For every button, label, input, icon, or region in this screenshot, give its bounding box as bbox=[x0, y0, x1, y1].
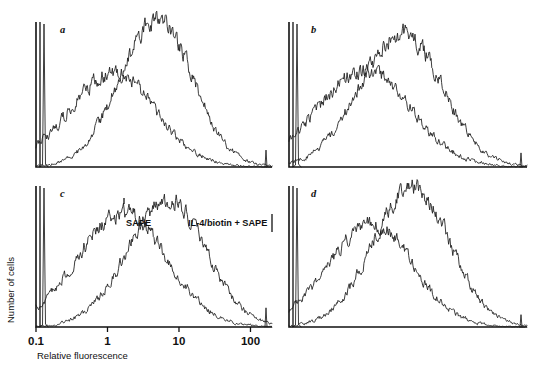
y-axis-title: Number of cells bbox=[5, 257, 16, 323]
x-axis-title: Relative fluorescence bbox=[37, 350, 128, 361]
panel-a-trace-il4-biotin-sape bbox=[36, 11, 272, 166]
panel-d-axes bbox=[289, 186, 527, 327]
panels-group bbox=[36, 11, 527, 327]
panel-b-axes bbox=[289, 22, 527, 167]
panel-b-trace-il4-biotin-sape bbox=[289, 24, 527, 167]
panel-d-trace-il4-biotin-sape bbox=[289, 180, 527, 327]
panel-letter-b: b bbox=[311, 24, 316, 35]
panel-c-right-edge-spike bbox=[265, 308, 267, 327]
panel-b-trace-sape bbox=[289, 64, 527, 166]
panel-b-left-edge-spike bbox=[293, 24, 301, 167]
x-axis-tick-label-10: 10 bbox=[173, 335, 186, 347]
panel-d bbox=[289, 180, 527, 327]
panel-c-axes bbox=[36, 186, 272, 327]
curve-label-il4-biotin-sape: IL-4/biotin + SAPE bbox=[188, 218, 267, 228]
x-axis-tick-label-0.1: 0.1 bbox=[28, 335, 45, 347]
panel-d-left-edge-spike bbox=[293, 188, 301, 327]
panel-letter-d: d bbox=[311, 188, 317, 199]
annotations-group: abcd0.1110100Relative fluorescenceNumber… bbox=[5, 24, 317, 361]
histogram-figure: abcd0.1110100Relative fluorescenceNumber… bbox=[0, 0, 548, 385]
panel-c bbox=[36, 186, 272, 327]
panel-a-axes bbox=[36, 22, 272, 167]
x-axis-tick-label-1: 1 bbox=[104, 335, 111, 347]
panel-c-trace-il4-biotin-sape bbox=[36, 194, 272, 326]
figure-container: abcd0.1110100Relative fluorescenceNumber… bbox=[0, 0, 548, 385]
panel-b bbox=[289, 22, 527, 167]
panel-letter-a: a bbox=[60, 24, 65, 35]
panel-a bbox=[36, 11, 272, 167]
curve-label-sape: SAPE bbox=[126, 218, 151, 228]
panel-a-left-edge-spike bbox=[40, 24, 48, 167]
panel-letter-c: c bbox=[60, 188, 65, 199]
x-axis-tick-label-100: 100 bbox=[241, 335, 260, 347]
